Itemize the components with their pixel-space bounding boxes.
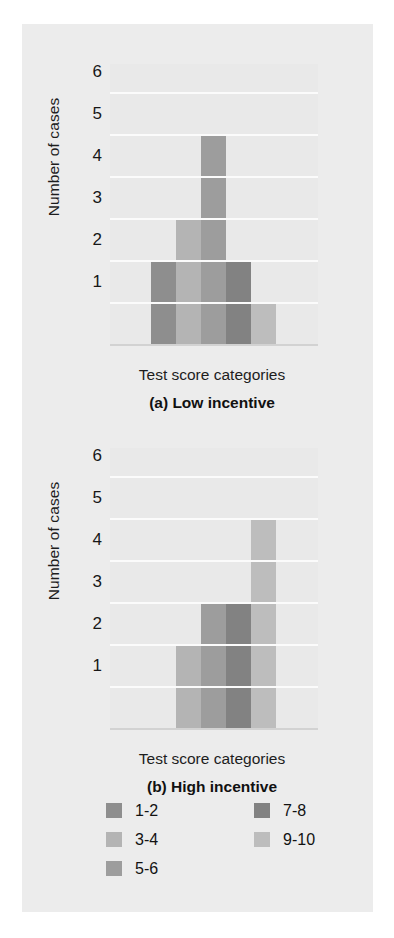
legend-column-right: 7-89-10 [254,796,315,854]
y-axis-tick-5: 5 [62,104,102,124]
gridline [110,134,318,136]
y-axis-tick-3: 3 [62,188,102,208]
bar-3-4 [176,218,201,344]
y-axis-tick-1: 1 [62,272,102,292]
gridline [110,218,318,220]
legend-label: 1-2 [135,802,158,820]
gridline [110,92,318,94]
y-axis-tick-2: 2 [62,614,102,634]
y-axis-label-b: Number of cases [45,451,63,631]
bar-5-6 [201,602,226,728]
y-axis-tick-6: 6 [62,446,102,466]
y-axis-tick-4: 4 [62,530,102,550]
y-axis-tick-4: 4 [62,146,102,166]
legend-swatch-icon [106,803,122,818]
plot-area-a: 123456 [110,64,318,346]
gridline [110,644,318,646]
legend-item-1-2: 1-2 [106,796,158,825]
gridline [110,518,318,520]
gridline [110,560,318,562]
legend-label: 5-6 [135,860,158,878]
bar-9-10 [251,302,276,344]
legend-swatch-icon [254,832,270,847]
chart-high-incentive: Number of cases 123456 Test score catego… [22,436,373,796]
gridline [110,260,318,262]
bar-7-8 [226,602,251,728]
chart-low-incentive: Number of cases 123456 Test score catego… [22,52,373,412]
plot-area-b: 123456 [110,448,318,730]
y-axis-tick-2: 2 [62,230,102,250]
gridline [110,302,318,304]
legend-item-9-10: 9-10 [254,825,315,854]
axis-baseline [110,344,318,346]
y-axis-tick-5: 5 [62,488,102,508]
x-axis-label-b: Test score categories [82,750,342,768]
gridline [110,476,318,478]
legend-item-5-6: 5-6 [106,854,158,883]
legend-label: 3-4 [135,831,158,849]
legend-label: 7-8 [283,802,306,820]
legend-label: 9-10 [283,831,315,849]
y-axis-tick-1: 1 [62,656,102,676]
axis-baseline [110,728,318,730]
gridline [110,602,318,604]
bar-5-6 [201,134,226,344]
legend: 1-23-45-6 7-89-10 [22,796,373,896]
gridline [110,176,318,178]
chart-caption-b: (b) High incentive [82,778,342,796]
chart-caption-a: (a) Low incentive [82,394,342,412]
legend-swatch-icon [106,832,122,847]
gridline [110,686,318,688]
y-axis-tick-6: 6 [62,62,102,82]
legend-item-7-8: 7-8 [254,796,315,825]
y-axis-tick-3: 3 [62,572,102,592]
legend-swatch-icon [254,803,270,818]
legend-swatch-icon [106,861,122,876]
y-axis-label-a: Number of cases [45,67,63,247]
legend-column-left: 1-23-45-6 [106,796,158,883]
bar-9-10 [251,518,276,728]
figure-panel: Number of cases 123456 Test score catego… [22,24,373,912]
legend-item-3-4: 3-4 [106,825,158,854]
x-axis-label-a: Test score categories [82,366,342,384]
